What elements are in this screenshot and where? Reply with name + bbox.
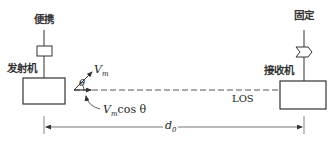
projection-pointer xyxy=(86,96,100,109)
receiver-antenna xyxy=(296,30,312,81)
receiver-box xyxy=(280,81,326,109)
receiver-label: 接收机 xyxy=(264,65,294,76)
transmitter-antenna-label: 便携 xyxy=(34,14,54,25)
projection-label: Vmcos θ xyxy=(103,104,146,118)
angle-label: θ xyxy=(79,78,85,88)
doppler-diagram: 便携 发射机 固定 接收机 Vm θ Vmcos θ LOS d0 xyxy=(0,0,335,149)
fixed-antenna-icon xyxy=(296,47,312,57)
transmitter-label: 发射机 xyxy=(7,63,37,74)
velocity-label: Vm xyxy=(94,64,109,78)
los-label: LOS xyxy=(232,94,254,104)
distance-label: d0 xyxy=(165,120,177,134)
receiver-antenna-label: 固定 xyxy=(294,10,314,21)
transmitter-antenna xyxy=(37,30,52,78)
transmitter-box xyxy=(23,78,65,104)
